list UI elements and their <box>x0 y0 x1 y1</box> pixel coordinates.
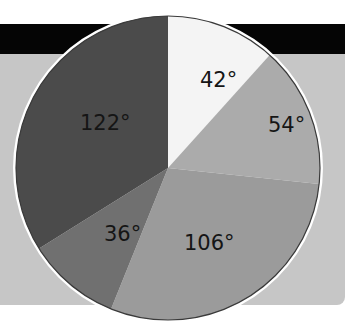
slice-label-3: 106° <box>184 231 235 255</box>
slice-label-5: 122° <box>80 111 131 135</box>
slice-label-4: 36° <box>104 222 141 246</box>
pie-chart: 42° 54° 106° 36° 122° <box>0 0 355 331</box>
slice-label-2: 54° <box>268 113 305 137</box>
pie-slices <box>16 16 320 320</box>
slice-label-1: 42° <box>200 68 237 92</box>
